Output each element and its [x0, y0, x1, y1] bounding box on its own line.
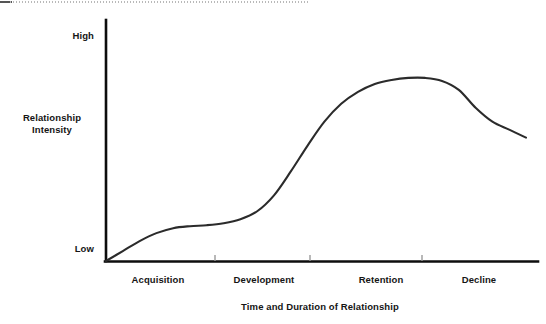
- x-axis-label-decline: Decline: [462, 274, 497, 286]
- x-axis-title: Time and Duration of Relationship: [241, 301, 399, 313]
- x-axis-label-retention: Retention: [359, 274, 404, 286]
- y-axis-title-line-1: Relationship: [10, 112, 94, 124]
- y-axis-label-high: High: [72, 30, 94, 42]
- y-axis-title: Relationship Intensity: [10, 112, 94, 135]
- y-axis-title-line-2: Intensity: [10, 124, 94, 136]
- x-axis-label-development: Development: [234, 274, 295, 286]
- x-axis-label-acquisition: Acquisition: [132, 274, 185, 286]
- y-axis-label-low: Low: [75, 243, 94, 255]
- chart-figure: High Low Relationship Intensity Acquisit…: [0, 0, 546, 324]
- relationship-intensity-curve: [106, 78, 526, 261]
